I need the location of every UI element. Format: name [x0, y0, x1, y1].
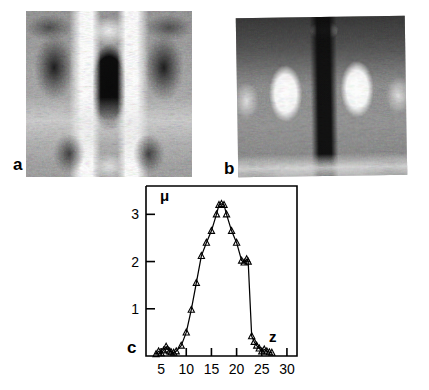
- chart-y-axis-label: μ: [160, 187, 169, 204]
- chart-x-axis-label: z: [269, 328, 277, 345]
- chart-y-tick-labels: 123: [131, 206, 139, 316]
- chart-x-tick-label: 15: [204, 361, 220, 377]
- chart-data-line: [156, 204, 272, 354]
- chart-x-tick-label: 20: [229, 361, 245, 377]
- chart-y-tick-label: 3: [131, 206, 139, 222]
- chart-svg: 123 51015202530 μ z: [0, 0, 429, 390]
- chart-x-tick-label: 25: [254, 361, 270, 377]
- figure-root: a b c 123 51015202530 μ z: [0, 0, 429, 390]
- chart-x-tick-label: 5: [157, 361, 165, 377]
- chart-x-tick-label: 30: [279, 361, 295, 377]
- chart-x-tick-label: 10: [178, 361, 194, 377]
- chart-x-tick-labels: 51015202530: [157, 361, 295, 377]
- chart-y-tick-label: 1: [131, 301, 139, 317]
- chart-y-tick-label: 2: [131, 254, 139, 270]
- chart-panel-c: 123 51015202530 μ z: [0, 0, 429, 390]
- chart-y-axis-ticks: [146, 214, 155, 308]
